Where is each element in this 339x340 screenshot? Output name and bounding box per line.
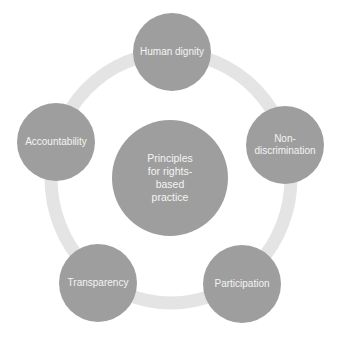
node-transparency: Transparency <box>59 244 137 322</box>
center-node: Principles for rights- based practice <box>112 120 228 236</box>
node-human-dignity: Human dignity <box>133 13 211 91</box>
node-label: Participation <box>214 278 269 290</box>
node-accountability: Accountability <box>17 103 95 181</box>
node-non-discrimination: Non- discrimination <box>246 106 324 184</box>
node-label: Accountability <box>25 136 87 148</box>
node-label: Human dignity <box>140 46 204 58</box>
rights-based-practice-diagram: Principles for rights- based practice Hu… <box>0 0 339 340</box>
node-label: Non- discrimination <box>254 133 315 157</box>
center-node-label: Principles for rights- based practice <box>147 152 193 204</box>
node-label: Transparency <box>68 277 129 289</box>
node-participation: Participation <box>203 245 281 323</box>
